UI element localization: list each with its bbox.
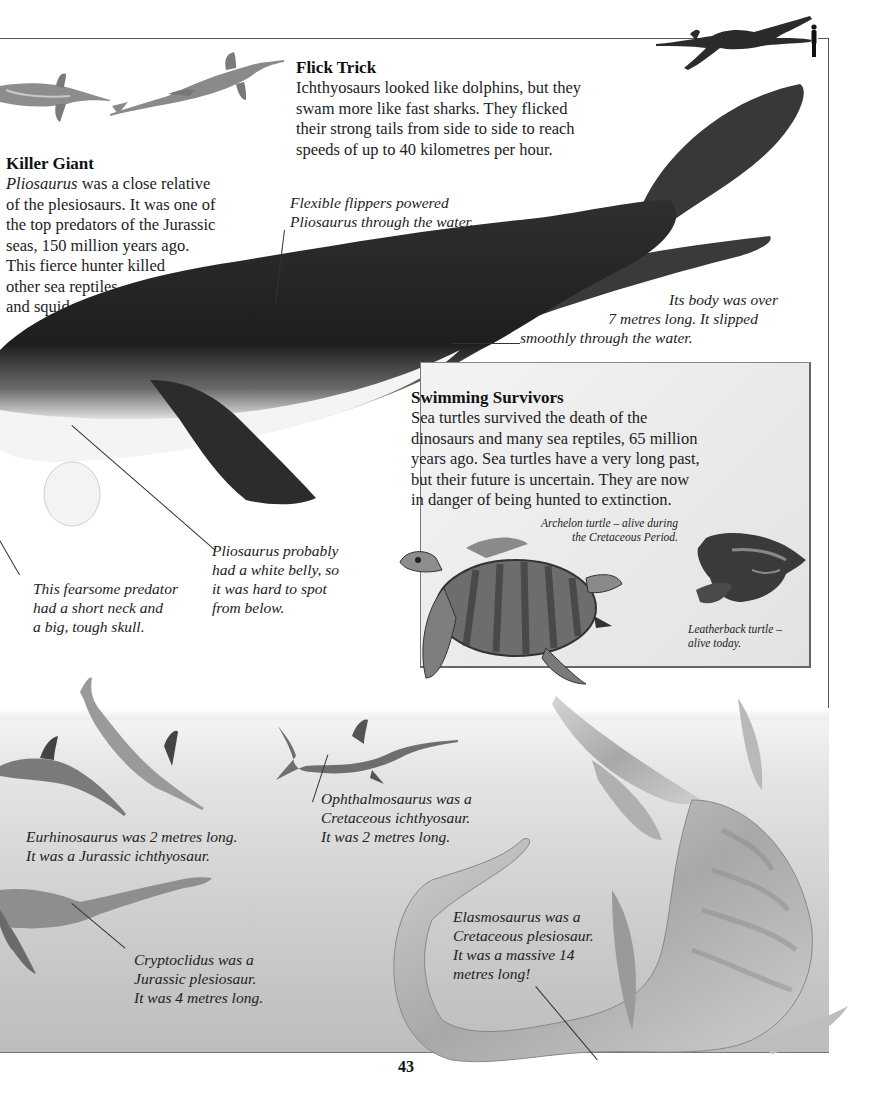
archelon-turtle-illustration [396, 528, 626, 688]
leader-body-length [452, 343, 520, 344]
leatherback-turtle-illustration [692, 530, 810, 610]
human-silhouette-icon [808, 24, 820, 58]
leader-skull [0, 540, 20, 575]
caption-cryptoclidus: Cryptoclidus was a Jurassic plesiosaur. … [134, 950, 263, 1007]
eurhinosaurus-illustration [0, 676, 210, 826]
page-number: 43 [398, 1058, 414, 1076]
caption-white-belly: Pliosaurus probably had a white belly, s… [212, 541, 339, 617]
caption-flippers: Flexible flippers powered Pliosaurus thr… [290, 193, 474, 231]
killer-giant-heading: Killer Giant [6, 154, 296, 174]
flick-trick-section: Flick Trick Ichthyosaurs looked like dol… [296, 58, 656, 160]
flick-trick-heading: Flick Trick [296, 58, 656, 78]
swimming-survivors-heading: Swimming Survivors [411, 388, 811, 408]
species-name: Pliosaurus [6, 174, 78, 193]
caption-ophthalmosaurus: Ophthalmosaurus was a Cretaceous ichthyo… [321, 789, 472, 846]
caption-leatherback: Leatherback turtle – alive today. [688, 622, 782, 650]
caption-body-length: Its body was over 7 metres long. It slip… [520, 290, 778, 347]
elasmosaurus-illustration [392, 690, 852, 1074]
top-rule [0, 38, 700, 39]
killer-giant-section: Killer Giant Pliosaurus was a close rela… [6, 154, 296, 318]
caption-predator-skull: This fearsome predator had a short neck … [33, 579, 178, 636]
caption-eurhinosaurus: Eurhinosaurus was 2 metres long. It was … [26, 827, 237, 865]
swimming-survivors-text: Swimming Survivors Sea turtles survived … [411, 388, 811, 511]
pliosaurus-scale-icon [650, 8, 830, 72]
swimming-survivors-body: Sea turtles survived the death of the di… [411, 408, 811, 511]
caption-elasmosaurus: Elasmosaurus was a Cretaceous plesiosaur… [453, 907, 594, 983]
killer-giant-body: Pliosaurus was a close relative of the p… [6, 174, 296, 318]
flick-trick-body: Ichthyosaurs looked like dolphins, but t… [296, 78, 656, 160]
